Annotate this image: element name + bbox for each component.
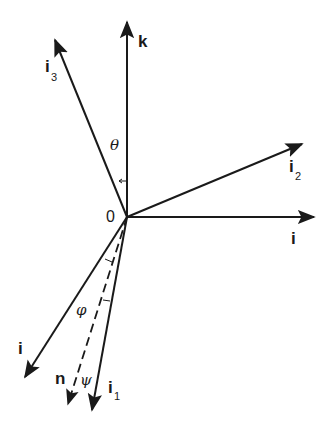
vector-i2 [127,144,302,217]
label-i3-subscript: 3 [51,71,57,83]
label-i3: i [45,57,50,76]
label-psi: ψ [80,371,92,389]
vector-diagram: k i 3 i 2 i i n i 1 0 θ φ ψ [0,0,332,430]
label-i-lower: i [18,339,23,358]
vector-i3 [55,40,127,217]
label-n: n [55,369,65,388]
label-i-right: i [291,229,296,248]
label-i2: i [289,157,294,176]
label-phi: φ [76,301,87,319]
label-k: k [138,32,148,51]
label-theta: θ [110,136,119,154]
label-i1-subscript: 1 [114,390,120,402]
label-i2-subscript: 2 [295,170,301,182]
label-origin: 0 [106,208,115,225]
psi-angle-marker [103,300,110,301]
label-i1: i [108,378,113,397]
phi-angle-marker [105,259,112,262]
